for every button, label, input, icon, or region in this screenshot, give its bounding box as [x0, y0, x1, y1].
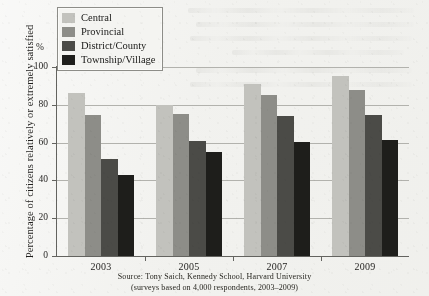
legend: Central Provincial District/County Towns… [57, 7, 163, 71]
y-axis-tick-label: 80 [8, 99, 48, 109]
bar-central-2007 [244, 84, 261, 256]
legend-label-provincial: Provincial [81, 26, 124, 38]
legend-swatch-township-village [62, 55, 75, 65]
bar-district-county-2003 [101, 159, 118, 256]
plot-area [57, 67, 409, 256]
source-line-2: (surveys based on 4,000 respondents, 200… [0, 283, 429, 294]
y-axis-tick [52, 256, 56, 257]
x-axis-tick-label: 2009 [335, 261, 395, 272]
y-axis-tick-label: 20 [8, 212, 48, 222]
bar-central-2009 [332, 76, 349, 256]
y-axis-tick [52, 180, 56, 181]
figure-page: Percentage of citizens relatively or ext… [0, 0, 429, 296]
x-axis-tick-label: 2005 [159, 261, 219, 272]
legend-swatch-central [62, 13, 75, 23]
y-axis-unit-label: % [36, 42, 44, 52]
bar-provincial-2003 [85, 115, 102, 256]
y-axis-tick-label: 60 [8, 137, 48, 147]
x-axis-tick [321, 257, 322, 261]
legend-swatch-district-county [62, 41, 75, 51]
legend-label-township-village: Township/Village [81, 54, 155, 66]
y-axis-tick-label: 40 [8, 174, 48, 184]
bar-district-county-2005 [189, 141, 206, 256]
x-axis-tick [233, 257, 234, 261]
x-axis-tick [145, 257, 146, 261]
bar-district-county-2009 [365, 115, 382, 256]
legend-label-district-county: District/County [81, 40, 146, 52]
y-axis-tick [52, 67, 56, 68]
bar-provincial-2009 [349, 90, 366, 256]
bar-central-2005 [156, 105, 173, 256]
y-axis-tick-label: 0 [8, 250, 48, 260]
y-axis-tick [52, 105, 56, 106]
bar-central-2003 [68, 93, 85, 256]
bar-provincial-2005 [173, 114, 190, 256]
source-line-1: Source: Tony Saich, Kennedy School, Harv… [0, 272, 429, 283]
y-axis-line [56, 66, 57, 257]
bar-township-village-2003 [118, 175, 135, 256]
bar-district-county-2007 [277, 116, 294, 256]
legend-item-provincial: Provincial [62, 25, 155, 39]
legend-swatch-provincial [62, 27, 75, 37]
legend-item-township-village: Township/Village [62, 53, 155, 67]
y-axis-tick-label: 100 [8, 61, 48, 71]
legend-item-district-county: District/County [62, 39, 155, 53]
bar-provincial-2007 [261, 95, 278, 256]
bar-township-village-2009 [382, 140, 399, 256]
bar-township-village-2005 [206, 152, 223, 256]
y-axis-tick [52, 218, 56, 219]
legend-label-central: Central [81, 12, 112, 24]
x-axis-tick-label: 2007 [247, 261, 307, 272]
source-caption: Source: Tony Saich, Kennedy School, Harv… [0, 272, 429, 293]
bar-township-village-2007 [294, 142, 311, 256]
y-axis-tick [52, 143, 56, 144]
x-axis-tick-label: 2003 [71, 261, 131, 272]
legend-item-central: Central [62, 11, 155, 25]
